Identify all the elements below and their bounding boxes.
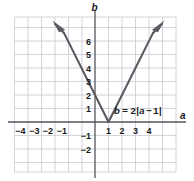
x-tick-label: 2 xyxy=(119,126,124,136)
equation-minus: − xyxy=(146,105,152,116)
y-tick-label: −2 xyxy=(81,145,91,155)
x-tick-label: 4 xyxy=(146,126,151,136)
x-tick-label: −1 xyxy=(57,126,67,136)
y-tick-label: 1 xyxy=(86,104,91,114)
y-tick-label: 5 xyxy=(86,50,91,60)
equation-b: b xyxy=(114,105,120,116)
coordinate-plane-svg: b a −4 −3 −2 −1 1 2 3 4 −2 −1 1 2 3 4 5 … xyxy=(0,0,194,181)
y-tick-label: 4 xyxy=(86,64,91,74)
y-tick-label: 2 xyxy=(86,91,91,101)
y-tick-label: 6 xyxy=(86,37,91,47)
x-tick-label: −3 xyxy=(29,126,39,136)
y-axis-name-label: b xyxy=(92,2,98,13)
absolute-value-graph-figure: b a −4 −3 −2 −1 1 2 3 4 −2 −1 1 2 3 4 5 … xyxy=(0,0,194,181)
x-tick-label: −4 xyxy=(15,126,25,136)
equation-text: b=2|a−1| xyxy=(114,105,162,116)
x-axis-name-label: a xyxy=(180,110,186,121)
x-tick-label: −2 xyxy=(43,126,53,136)
y-tick-label: −1 xyxy=(81,131,91,141)
x-tick-label: 3 xyxy=(133,126,138,136)
equation-annotation: b=2|a−1| xyxy=(114,105,162,116)
equation-bar-close: | xyxy=(159,105,162,116)
equation-a: a xyxy=(139,105,144,116)
equation-equals: = xyxy=(122,105,128,116)
x-tick-label: 1 xyxy=(106,126,111,136)
equation-coefficient: 2 xyxy=(130,105,135,116)
axes xyxy=(8,10,186,178)
y-tick-label: 3 xyxy=(86,77,91,87)
